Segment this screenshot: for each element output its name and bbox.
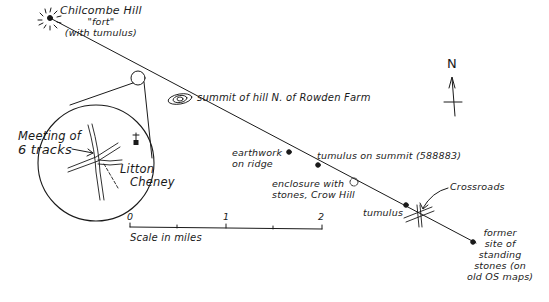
label-rowden: summit of hill N. of Rowden Farm: [197, 92, 371, 103]
label-north: N: [447, 58, 457, 69]
tumulus-dot-2: [404, 203, 409, 208]
ley-line: [50, 18, 476, 243]
hill-contour-icon: [167, 92, 192, 106]
scale-tick-1: 1: [223, 211, 229, 222]
tumulus-dot: [48, 16, 53, 21]
label-litton-cheney: Litton Cheney: [120, 163, 175, 189]
label-meeting-tracks: Meeting of 6 tracks: [18, 130, 81, 156]
scale-bar: [130, 223, 322, 229]
label-earthwork: earthwork on ridge: [232, 147, 282, 169]
label-tumulus-summit: tumulus on summit (588883): [317, 150, 461, 161]
crossroads-icon: [404, 205, 434, 227]
label-standing-stones: former site of standing stones (on old O…: [467, 227, 533, 282]
tumulus-summit-dot: [316, 163, 321, 168]
label-tumulus: tumulus: [363, 207, 403, 218]
label-enclosure: enclosure with stones, Crow Hill: [272, 178, 355, 200]
scale-tick-2: 2: [318, 211, 324, 222]
earthwork-dot: [287, 150, 292, 155]
north-arrow-icon: [444, 77, 462, 116]
label-chilcombe: Chilcombe Hill "fort" (with tumulus): [60, 5, 142, 38]
scale-caption: Scale in miles: [130, 232, 202, 243]
church-icon: [133, 133, 139, 145]
label-crossroads: Crossroads: [450, 181, 505, 192]
scale-tick-0: 0: [127, 211, 133, 222]
